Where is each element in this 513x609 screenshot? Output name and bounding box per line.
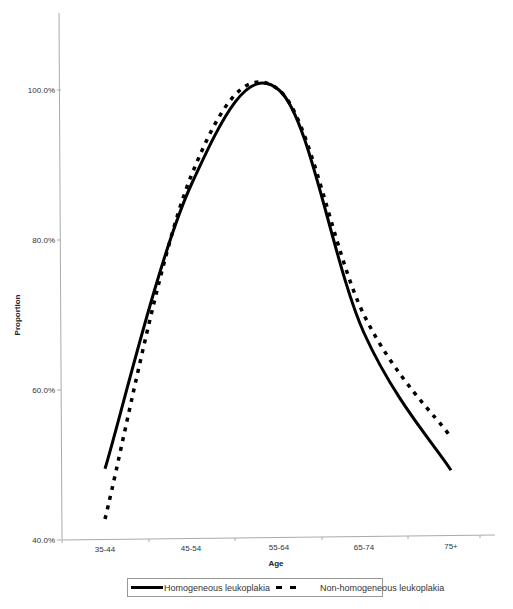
legend-item-non-homogeneous: Non-homogeneous leukoplakia xyxy=(270,583,444,593)
y-tick-label: 60.0% xyxy=(32,386,55,395)
axes xyxy=(59,13,495,540)
legend: Homogeneous leukoplakia Non-homogeneous … xyxy=(127,578,383,597)
non-homogeneous-series-line xyxy=(105,82,451,519)
x-tick-label: 45-54 xyxy=(181,544,202,553)
series-lines xyxy=(105,82,451,519)
dashed-line-swatch-icon xyxy=(276,586,302,589)
y-ticks: 40.0%60.0%80.0%100.0% xyxy=(28,86,61,545)
x-tick-label: 35-44 xyxy=(95,545,116,554)
line-chart: 40.0%60.0%80.0%100.0% 35-4445-5455-6465-… xyxy=(0,0,513,575)
y-tick-label: 40.0% xyxy=(32,536,55,545)
x-tick-label: 55-64 xyxy=(269,543,290,552)
x-axis xyxy=(62,535,495,540)
y-tick-label: 100.0% xyxy=(28,86,55,95)
x-axis-title: Age xyxy=(268,559,284,568)
x-tick-label: 65-74 xyxy=(354,543,375,552)
y-tick-label: 80.0% xyxy=(32,236,55,245)
y-axis xyxy=(59,13,62,540)
legend-item-homogeneous: Homogeneous leukoplakia xyxy=(131,583,270,593)
x-tick-label: 75+ xyxy=(444,542,458,551)
y-axis-title: Proportion xyxy=(13,294,22,335)
solid-line-swatch-icon xyxy=(131,586,163,589)
homogeneous-series-line xyxy=(105,83,451,470)
legend-label: Homogeneous leukoplakia xyxy=(164,583,270,593)
legend-label: Non-homogeneous leukoplakia xyxy=(320,583,444,593)
